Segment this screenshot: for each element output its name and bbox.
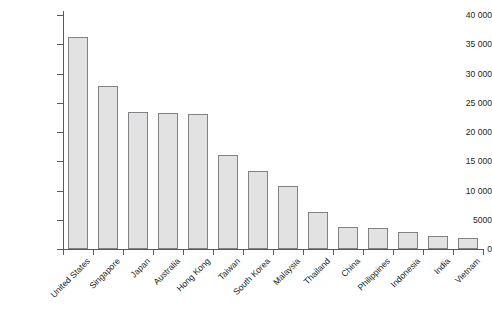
bar [188, 114, 208, 249]
bar [218, 155, 238, 249]
y-tick-label: 25 000 [444, 98, 492, 108]
bar [368, 228, 388, 249]
bar [458, 238, 478, 249]
x-tick-mark [333, 250, 334, 255]
y-tick-mark [57, 220, 63, 221]
y-tick-label: 15 000 [444, 156, 492, 166]
y-tick-label: 10 000 [444, 186, 492, 196]
bar [248, 171, 268, 249]
y-tick-mark [57, 161, 63, 162]
y-tick-label: 35 000 [444, 39, 492, 49]
y-tick-mark [57, 15, 63, 16]
bar [338, 227, 358, 249]
y-tick-label: 20 000 [444, 127, 492, 137]
y-tick-mark [57, 191, 63, 192]
y-tick-mark [57, 132, 63, 133]
bar [308, 212, 328, 249]
x-tick-mark [483, 250, 484, 255]
y-tick-label: 40 000 [444, 10, 492, 20]
x-tick-mark [183, 250, 184, 255]
bar [68, 37, 88, 249]
x-tick-mark [303, 250, 304, 255]
x-tick-mark [153, 250, 154, 255]
bar [428, 236, 448, 249]
x-tick-mark [93, 250, 94, 255]
x-tick-mark [423, 250, 424, 255]
y-axis-line [63, 11, 64, 250]
x-tick-mark [393, 250, 394, 255]
x-tick-mark [63, 250, 64, 255]
x-tick-mark [123, 250, 124, 255]
x-tick-mark [243, 250, 244, 255]
x-tick-mark [273, 250, 274, 255]
bar [158, 113, 178, 249]
bar [128, 112, 148, 249]
x-tick-mark [213, 250, 214, 255]
bar [98, 86, 118, 249]
bar [278, 186, 298, 249]
y-tick-mark [57, 74, 63, 75]
bar [398, 232, 418, 249]
y-tick-mark [57, 44, 63, 45]
x-tick-mark [363, 250, 364, 255]
y-tick-label: 30 000 [444, 69, 492, 79]
y-tick-mark [57, 103, 63, 104]
y-tick-label: 5000 [444, 215, 492, 225]
bar-chart: GDP per capita US$ 0500010 00015 00020 0… [0, 0, 492, 315]
x-tick-mark [453, 250, 454, 255]
